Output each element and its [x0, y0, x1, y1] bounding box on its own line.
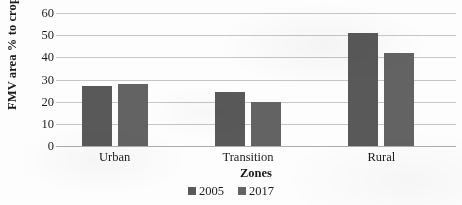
- bar-fill: [348, 33, 378, 146]
- plot-area: [56, 13, 456, 146]
- y-tick-label: 60: [30, 7, 54, 19]
- y-tick-label: 50: [30, 29, 54, 41]
- bar-rural-2017: [384, 53, 414, 146]
- gridline-0: [56, 146, 456, 147]
- y-tick-label: 20: [30, 96, 54, 108]
- legend-swatch-2017: [238, 187, 246, 195]
- x-axis-title: Zones: [56, 166, 456, 180]
- bar-fill: [215, 92, 245, 146]
- gridline-50: [56, 35, 456, 36]
- y-axis-title: FMV area % to crop area: [3, 0, 21, 110]
- x-axis-category-labels: UrbanTransitionRural: [56, 150, 456, 166]
- bar-urban-2017: [118, 84, 148, 146]
- bar-fill: [118, 84, 148, 146]
- bar-chart-figure: FMV area % to crop area 0102030405060 Ur…: [0, 0, 462, 205]
- legend-label: 2005: [199, 185, 224, 198]
- bar-fill: [82, 86, 112, 146]
- category-label-urban: Urban: [62, 150, 168, 165]
- legend-label: 2017: [249, 185, 274, 198]
- legend-swatch-2005: [188, 187, 196, 195]
- y-tick-label: 30: [30, 74, 54, 86]
- gridline-60: [56, 13, 456, 14]
- bar-fill: [384, 53, 414, 146]
- y-tick-label: 40: [30, 51, 54, 63]
- legend-entry-2017: 2017: [238, 185, 274, 198]
- category-label-transition: Transition: [195, 150, 301, 165]
- bar-urban-2005: [82, 86, 112, 146]
- category-label-rural: Rural: [328, 150, 434, 165]
- bar-fill: [251, 102, 281, 146]
- legend-entry-2005: 2005: [188, 185, 224, 198]
- y-axis-tick-labels: 0102030405060: [30, 13, 54, 146]
- chart-legend: 20052017: [0, 183, 462, 199]
- y-tick-label: 0: [30, 140, 54, 152]
- y-tick-label: 10: [30, 118, 54, 130]
- bar-transition-2005: [215, 92, 245, 146]
- bar-rural-2005: [348, 33, 378, 146]
- bar-transition-2017: [251, 102, 281, 146]
